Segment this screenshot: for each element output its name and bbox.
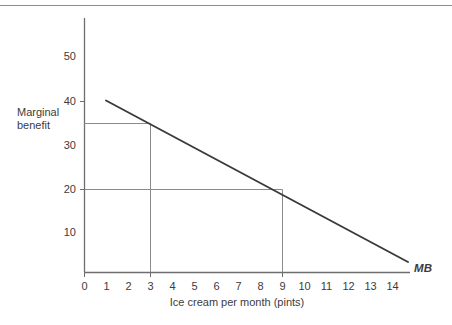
x-tick-label-4: 4 <box>165 280 181 292</box>
marginal-benefit-chart-figure: 50 40 30 20 10 0 1 2 3 4 5 6 7 8 9 10 11… <box>0 0 452 325</box>
x-tick-label-11: 11 <box>319 280 335 292</box>
y-axis-title-line-1: Marginal <box>17 106 59 119</box>
y-tick-label-10: 10 <box>52 226 76 238</box>
y-tick-label-20: 20 <box>52 183 76 195</box>
x-tick-label-9: 9 <box>275 280 291 292</box>
x-tick-label-0: 0 <box>77 280 93 292</box>
x-tick-label-1: 1 <box>99 280 115 292</box>
x-tick-label-6: 6 <box>209 280 225 292</box>
x-tick-label-10: 10 <box>297 280 313 292</box>
x-tick-label-8: 8 <box>253 280 269 292</box>
y-axis-title-line-2: benefit <box>17 119 50 132</box>
x-tick-label-13: 13 <box>363 280 379 292</box>
y-tick-label-30: 30 <box>52 139 76 151</box>
x-tick-label-14: 14 <box>385 280 401 292</box>
mb-curve-label: MB <box>414 262 432 274</box>
x-tick-label-5: 5 <box>187 280 203 292</box>
x-tick-label-2: 2 <box>121 280 137 292</box>
x-axis-title: Ice cream per month (pints) <box>157 296 317 308</box>
x-tick-label-7: 7 <box>231 280 247 292</box>
y-tick-label-50: 50 <box>52 50 76 62</box>
chart-plot-area <box>0 0 452 325</box>
x-tick-label-3: 3 <box>143 280 159 292</box>
x-tick-label-12: 12 <box>341 280 357 292</box>
mb-curve-line <box>106 101 408 263</box>
